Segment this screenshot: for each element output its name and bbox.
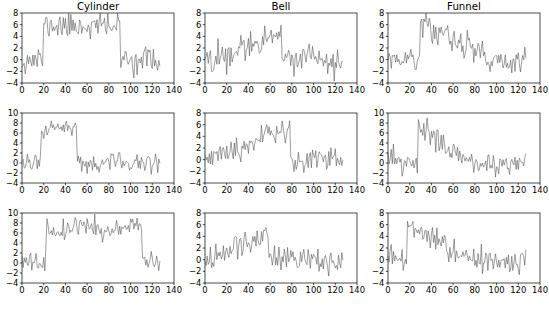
x-tick-label: 20 — [221, 285, 232, 295]
y-tick-label: 0 — [379, 255, 384, 265]
y-tick-label: 8 — [13, 118, 18, 128]
y-tick-label: −2 — [372, 266, 384, 276]
y-tick-label: 10 — [374, 108, 385, 118]
subplot-title: Funnel — [447, 1, 481, 12]
x-tick-label: 20 — [38, 85, 49, 95]
y-tick-label: −2 — [189, 166, 201, 176]
subplot-bell-row1: 020406080100120140−4−202468Bell — [183, 0, 366, 100]
y-tick-label: 6 — [13, 20, 18, 30]
axes-frame — [205, 13, 357, 83]
x-tick-label: 40 — [243, 85, 254, 95]
x-tick-label: 140 — [166, 285, 182, 295]
y-tick-label: 4 — [13, 238, 18, 248]
y-tick-label: 0 — [196, 55, 201, 65]
y-tick-label: 0 — [13, 55, 18, 65]
subplot-cylinder-row2: 020406080100120140−4−20246810 — [0, 100, 183, 200]
y-tick-label: 2 — [379, 243, 384, 253]
x-tick-label: 60 — [265, 85, 276, 95]
y-tick-label: −4 — [372, 178, 384, 188]
x-tick-label: 100 — [489, 85, 505, 95]
y-tick-label: 2 — [379, 43, 384, 53]
y-tick-label: 8 — [196, 108, 201, 118]
x-tick-label: 80 — [287, 285, 298, 295]
x-tick-label: 120 — [327, 185, 343, 195]
x-tick-label: 80 — [287, 85, 298, 95]
x-tick-label: 100 — [123, 285, 139, 295]
y-tick-label: 4 — [379, 31, 384, 41]
x-tick-label: 100 — [123, 85, 139, 95]
subplot-title: Bell — [272, 1, 291, 12]
x-tick-label: 80 — [470, 85, 481, 95]
x-tick-label: 20 — [404, 185, 415, 195]
y-tick-label: 10 — [8, 108, 19, 118]
y-tick-label: 8 — [196, 8, 201, 18]
x-tick-label: 0 — [385, 85, 390, 95]
x-tick-label: 100 — [306, 185, 322, 195]
subplot-funnel-row2: 020406080100120140−4−20246810 — [366, 100, 549, 200]
x-tick-label: 60 — [82, 85, 93, 95]
axes-frame — [388, 213, 540, 283]
x-tick-label: 120 — [510, 185, 526, 195]
x-tick-label: 120 — [327, 285, 343, 295]
y-tick-label: 2 — [379, 148, 384, 158]
x-tick-label: 120 — [510, 85, 526, 95]
x-tick-label: 60 — [82, 285, 93, 295]
x-tick-label: 120 — [327, 85, 343, 95]
x-tick-label: 140 — [349, 185, 365, 195]
x-tick-label: 0 — [385, 285, 390, 295]
y-tick-label: 6 — [379, 20, 384, 30]
x-tick-label: 40 — [60, 285, 71, 295]
y-tick-label: −4 — [6, 78, 18, 88]
axes-frame — [205, 113, 357, 183]
x-tick-label: 100 — [123, 185, 139, 195]
y-tick-label: −4 — [6, 178, 18, 188]
subplot-bell-row3: 020406080100120140−4−202468 — [183, 200, 366, 300]
x-tick-label: 20 — [221, 185, 232, 195]
x-tick-label: 100 — [489, 185, 505, 195]
y-tick-label: 4 — [196, 131, 201, 141]
x-tick-label: 80 — [104, 185, 115, 195]
x-tick-label: 140 — [532, 285, 548, 295]
x-tick-label: 60 — [448, 285, 459, 295]
x-tick-label: 0 — [385, 185, 390, 195]
y-tick-label: 4 — [13, 31, 18, 41]
y-tick-label: 10 — [8, 208, 19, 218]
x-tick-label: 140 — [532, 85, 548, 95]
x-tick-label: 100 — [306, 85, 322, 95]
y-tick-label: −2 — [6, 168, 18, 178]
axes-frame — [22, 213, 174, 283]
y-tick-label: −2 — [6, 268, 18, 278]
x-tick-label: 60 — [265, 285, 276, 295]
x-tick-label: 80 — [470, 285, 481, 295]
y-tick-label: 2 — [13, 43, 18, 53]
y-tick-label: 0 — [13, 158, 18, 168]
y-tick-label: 0 — [13, 258, 18, 268]
y-tick-label: 0 — [196, 155, 201, 165]
y-tick-label: 6 — [196, 120, 201, 130]
y-tick-label: 8 — [379, 208, 384, 218]
y-tick-label: 8 — [196, 208, 201, 218]
x-tick-label: 120 — [510, 285, 526, 295]
subplot-title: Cylinder — [77, 1, 120, 12]
y-tick-label: 4 — [196, 31, 201, 41]
y-tick-label: 4 — [196, 231, 201, 241]
y-tick-label: −4 — [189, 78, 201, 88]
y-tick-label: 6 — [196, 20, 201, 30]
x-tick-label: 20 — [38, 285, 49, 295]
y-tick-label: 8 — [379, 8, 384, 18]
x-tick-label: 140 — [166, 85, 182, 95]
x-tick-label: 40 — [426, 185, 437, 195]
x-tick-label: 140 — [349, 85, 365, 95]
x-tick-label: 120 — [144, 285, 160, 295]
y-tick-label: 6 — [13, 228, 18, 238]
x-tick-label: 20 — [404, 285, 415, 295]
x-tick-label: 80 — [104, 285, 115, 295]
x-tick-label: 100 — [306, 285, 322, 295]
y-tick-label: 2 — [13, 148, 18, 158]
subplot-bell-row2: 020406080100120140−4−202468 — [183, 100, 366, 200]
y-tick-label: −4 — [6, 278, 18, 288]
x-tick-label: 60 — [265, 185, 276, 195]
axes-frame — [388, 113, 540, 183]
subplot-cylinder-row3: 020406080100120140−4−20246810 — [0, 200, 183, 300]
x-tick-label: 0 — [202, 185, 207, 195]
